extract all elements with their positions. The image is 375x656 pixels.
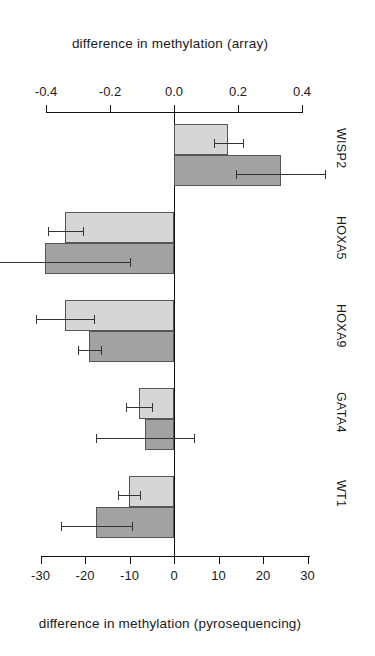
bar-array-wisp2 (174, 124, 228, 155)
errorbar-pyro-wisp2 (236, 174, 325, 175)
errorbar-array-hoxa5-cap (83, 227, 84, 236)
bottom-axis-tick-label: -30 (31, 568, 50, 583)
gene-label-hoxa9: HOXA9 (334, 304, 348, 348)
errorbar-array-wt1-cap (140, 491, 141, 500)
errorbar-pyro-hoxa9-cap (101, 346, 102, 355)
bar-pyro-wt1 (96, 507, 174, 538)
errorbar-array-gata4-cap (152, 403, 153, 412)
plot-area: -0.4-0.20.00.20.4-30-20-100102030WISP2HO… (0, 0, 375, 656)
bar-pyro-hoxa5 (45, 243, 174, 274)
gene-label-hoxa5: HOXA5 (334, 216, 348, 260)
errorbar-array-hoxa9 (36, 319, 94, 320)
top-axis-tick (46, 105, 47, 113)
errorbar-pyro-hoxa5-cap (130, 258, 131, 267)
bottom-axis-tick (308, 556, 309, 564)
errorbar-array-wisp2-cap (243, 139, 244, 148)
bottom-axis-tick-label: 30 (300, 568, 314, 583)
errorbar-pyro-hoxa5 (0, 262, 130, 263)
top-axis-tick-label: -0.2 (99, 84, 121, 99)
errorbar-pyro-hoxa9 (78, 350, 101, 351)
errorbar-array-wisp2-cap (214, 139, 215, 148)
bottom-axis-tick (174, 556, 175, 564)
errorbar-array-gata4 (126, 407, 152, 408)
bottom-axis-title: difference in methylation (pyrosequencin… (0, 616, 340, 631)
gene-label-gata4: GATA4 (334, 392, 348, 433)
top-axis-tick-label: 0.2 (229, 84, 247, 99)
top-axis-tick (302, 105, 303, 113)
bar-pyro-hoxa9 (89, 331, 174, 362)
bottom-axis-tick (85, 556, 86, 564)
errorbar-pyro-hoxa9-cap (78, 346, 79, 355)
errorbar-array-wt1 (118, 495, 140, 496)
gene-label-wisp2: WISP2 (334, 128, 348, 168)
chart-figure: difference in methylation (array) -0.4-0… (0, 0, 375, 656)
top-axis-tick-label: 0.4 (293, 84, 311, 99)
errorbar-pyro-wisp2-cap (236, 170, 237, 179)
top-axis-tick (238, 105, 239, 113)
errorbar-array-hoxa5-cap (48, 227, 49, 236)
bar-pyro-wisp2 (174, 155, 281, 186)
bottom-axis-tick-label: 0 (170, 568, 177, 583)
top-axis-tick (110, 105, 111, 113)
errorbar-array-wisp2 (214, 143, 243, 144)
bar-pyro-gata4 (145, 419, 174, 450)
bottom-axis-tick (219, 556, 220, 564)
top-axis-tick-label: 0.0 (165, 84, 183, 99)
errorbar-pyro-wt1-cap (132, 522, 133, 531)
bottom-axis-tick-label: 10 (211, 568, 225, 583)
errorbar-array-hoxa9-cap (36, 315, 37, 324)
errorbar-array-hoxa5 (48, 231, 83, 232)
errorbar-array-gata4-cap (126, 403, 127, 412)
bar-array-hoxa5 (65, 212, 174, 243)
bottom-axis-line (41, 556, 310, 557)
errorbar-array-hoxa9-cap (94, 315, 95, 324)
errorbar-pyro-gata4-cap (194, 434, 195, 443)
errorbar-array-wt1-cap (118, 491, 119, 500)
errorbar-pyro-gata4 (96, 438, 194, 439)
bottom-axis-tick (41, 556, 42, 564)
errorbar-pyro-wt1 (61, 526, 132, 527)
bottom-axis-tick (130, 556, 131, 564)
bottom-axis-tick (263, 556, 264, 564)
bottom-axis-tick-label: 20 (256, 568, 270, 583)
bar-array-gata4 (139, 388, 174, 419)
top-axis-tick-label: -0.4 (35, 84, 57, 99)
bottom-axis-tick-label: -20 (76, 568, 95, 583)
gene-label-wt1: WT1 (334, 480, 348, 507)
bar-array-wt1 (129, 476, 174, 507)
errorbar-pyro-gata4-cap (96, 434, 97, 443)
errorbar-pyro-wt1-cap (61, 522, 62, 531)
bar-array-hoxa9 (65, 300, 174, 331)
errorbar-pyro-wisp2-cap (325, 170, 326, 179)
bottom-axis-tick-label: -10 (120, 568, 139, 583)
